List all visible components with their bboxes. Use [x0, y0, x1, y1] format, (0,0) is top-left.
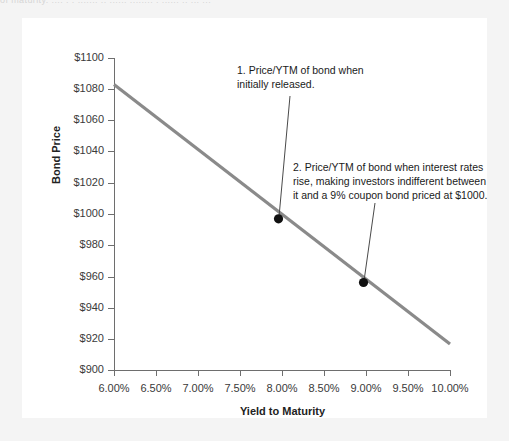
annotation-2-leader-line: [364, 203, 375, 281]
annotation-1-line-2: initially released.: [237, 77, 372, 91]
cut-off-text-remnant: of maturity. .... . . ....... .. ...... …: [0, 0, 509, 10]
annotation-2-line-1: 2. Price/YTM of bond when interest rates: [293, 160, 508, 174]
figure-card: $1100 $1080 $1060 $1040 $1020 $1000 $980…: [22, 18, 487, 418]
annotation-2-line-2: rise, making investors indifferent betwe…: [293, 174, 508, 188]
annotation-1: 1. Price/YTM of bond when initially rele…: [237, 63, 372, 91]
data-point-marker-1: [274, 214, 283, 223]
annotation-1-leader-line: [279, 96, 290, 217]
annotation-2: 2. Price/YTM of bond when interest rates…: [293, 160, 508, 202]
cut-off-text: of maturity. .... . . ....... .. ...... …: [0, 0, 211, 5]
annotation-2-line-3: it and a 9% coupon bond priced at $1000.: [293, 188, 508, 202]
data-point-marker-2: [359, 278, 368, 287]
price-yield-line: [114, 85, 450, 345]
annotation-1-line-1: 1. Price/YTM of bond when: [237, 63, 372, 77]
